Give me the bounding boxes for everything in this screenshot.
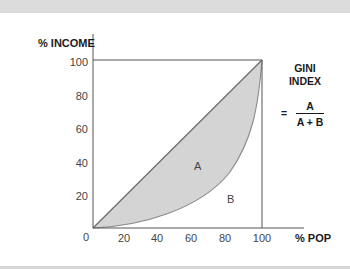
gini-title-line2: INDEX [285, 75, 325, 87]
region-b-label: B [227, 193, 234, 205]
y-axis-title: % INCOME [38, 37, 95, 49]
gini-numerator: A [295, 100, 325, 112]
origin-label: 0 [83, 231, 89, 243]
x-tick-20: 20 [109, 232, 139, 244]
x-tick-80: 80 [210, 232, 240, 244]
region-a-label: A [194, 160, 201, 172]
x-tick-100: 100 [247, 232, 277, 244]
y-tick-20: 20 [58, 190, 88, 202]
x-tick-60: 60 [176, 232, 206, 244]
gini-fraction-bar [296, 113, 324, 114]
gini-equals: = [278, 107, 290, 119]
y-tick-40: 40 [58, 157, 88, 169]
gini-denominator: A + B [293, 116, 327, 128]
gini-title-line1: GINI [285, 62, 325, 74]
x-tick-40: 40 [142, 232, 172, 244]
y-tick-80: 80 [58, 90, 88, 102]
x-axis-title: % POP [295, 232, 331, 244]
y-tick-60: 60 [58, 123, 88, 135]
y-tick-100: 100 [58, 56, 88, 68]
